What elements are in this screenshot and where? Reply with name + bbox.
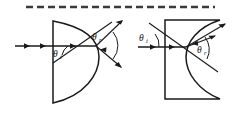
incident-ray-arrowhead-2 [40, 43, 46, 48]
theta-r-subscript: r [204, 49, 207, 56]
theta-r-symbol: θ [92, 32, 97, 42]
theta-r-symbol: θ [197, 45, 202, 55]
theta-i-label: θ i [139, 33, 148, 44]
refraction-figure: θ i θ r [0, 0, 241, 113]
incident-ray-arrowhead-1 [24, 43, 30, 48]
theta-i-subscript: i [146, 37, 148, 44]
theta-i-label: θ i [53, 49, 62, 60]
theta-i-symbol: θ [139, 33, 144, 43]
theta-i-arc [155, 34, 159, 47]
theta-r-arc [113, 32, 118, 59]
theta-i-subscript: i [60, 53, 62, 60]
incident-ray-arrowhead-2 [169, 44, 175, 49]
theta-i-symbol: θ [53, 49, 58, 59]
right-panel: θ i θ r [138, 20, 226, 99]
figure-root: θ i θ r [0, 0, 241, 113]
refracted-ray-upper [186, 24, 225, 47]
theta-r-label: θ r [92, 32, 102, 43]
surface-normal-line [53, 22, 112, 63]
left-panel: θ i θ r [15, 20, 123, 103]
theta-r-subscript: r [99, 36, 102, 43]
incident-ray-arrowhead-1 [150, 44, 156, 49]
theta-r-label: θ r [197, 45, 207, 56]
